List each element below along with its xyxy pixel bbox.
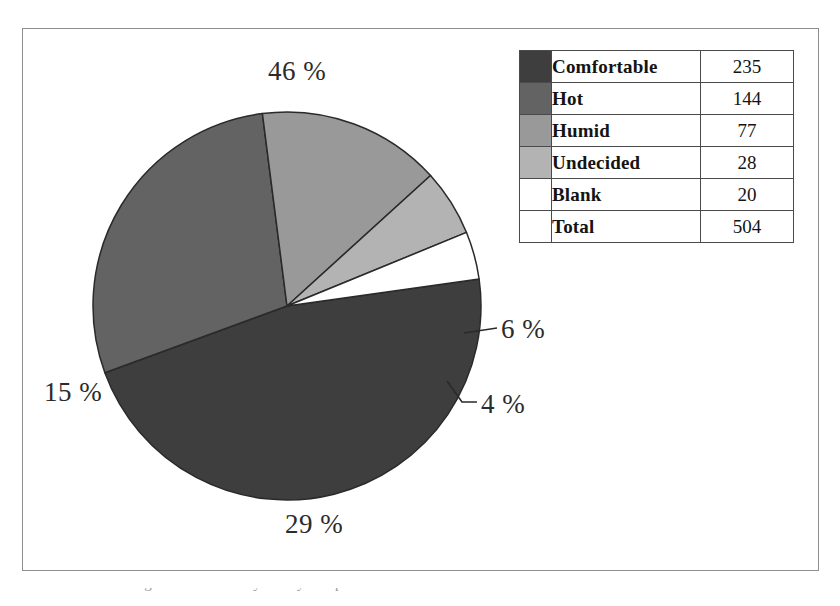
- legend-value: 235: [701, 51, 794, 83]
- legend-total-label: Total: [552, 211, 701, 243]
- legend-value: 20: [701, 179, 794, 211]
- figure-caption-text: Table 2.1 and the flight deck laboratory…: [24, 588, 450, 592]
- pie-label-hot: 29 %: [285, 509, 343, 540]
- legend-color-swatch: [520, 51, 552, 83]
- swatch-fill: [520, 115, 551, 146]
- legend-total-value: 504: [701, 211, 794, 243]
- legend-label: Humid: [552, 115, 701, 147]
- legend-value: 144: [701, 83, 794, 115]
- pie-label-blank: 4 %: [481, 389, 525, 420]
- legend-row: Undecided28: [520, 147, 794, 179]
- legend-table: Comfortable235Hot144Humid77Undecided28Bl…: [519, 50, 794, 243]
- swatch-fill: [520, 51, 551, 82]
- swatch-fill: [520, 83, 551, 114]
- legend-label: Blank: [552, 179, 701, 211]
- legend-table-container: Comfortable235Hot144Humid77Undecided28Bl…: [519, 50, 792, 243]
- swatch-fill: [520, 179, 551, 210]
- swatch-fill: [520, 147, 551, 178]
- legend-value: 77: [701, 115, 794, 147]
- legend-row: Hot144: [520, 83, 794, 115]
- legend-color-swatch: [520, 115, 552, 147]
- legend-value: 28: [701, 147, 794, 179]
- legend-total-spacer: [520, 211, 552, 243]
- legend-color-swatch: [520, 83, 552, 115]
- legend-row: Blank20: [520, 179, 794, 211]
- legend-color-swatch: [520, 179, 552, 211]
- legend-total-row: Total504: [520, 211, 794, 243]
- legend-row: Humid77: [520, 115, 794, 147]
- legend-color-swatch: [520, 147, 552, 179]
- legend-label: Hot: [552, 83, 701, 115]
- legend-label: Undecided: [552, 147, 701, 179]
- legend-label: Comfortable: [552, 51, 701, 83]
- pie-label-comfortable: 46 %: [268, 56, 326, 87]
- legend-row: Comfortable235: [520, 51, 794, 83]
- figure-caption-clipped: Table 2.1 and the flight deck laboratory…: [24, 588, 584, 606]
- pie-label-undecided: 6 %: [501, 314, 545, 345]
- pie-label-humid: 15 %: [44, 377, 102, 408]
